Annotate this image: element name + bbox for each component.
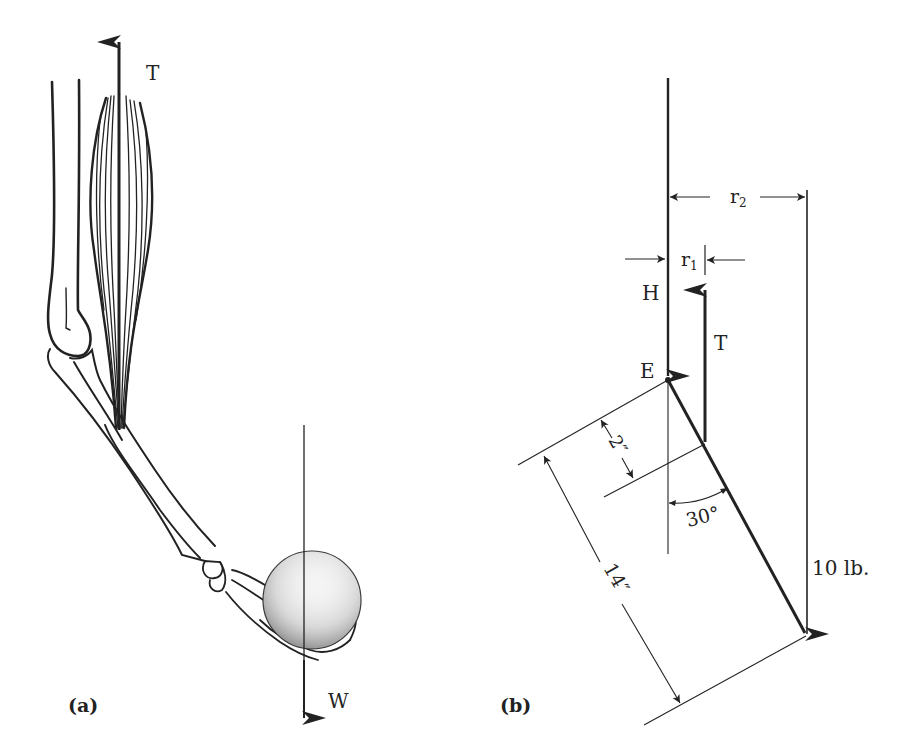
humerus-bone — [48, 80, 90, 356]
panel-a-label: (a) — [68, 694, 98, 716]
weight-label-a: W — [328, 689, 349, 713]
short-dimension-top — [601, 420, 612, 438]
extension-line-elbow — [518, 380, 668, 465]
panel-b-label: (b) — [500, 694, 531, 716]
short-dimension-label: 2″ — [605, 432, 632, 458]
hinge-force-label: H — [642, 281, 659, 305]
angle-arc — [669, 488, 728, 503]
panel-a-arm-illustration — [48, 80, 361, 660]
forearm-bones — [48, 349, 215, 561]
ball-weight — [263, 551, 361, 649]
load-label: 10 lb. — [812, 556, 869, 580]
long-dimension-label: 14″ — [600, 559, 635, 597]
angle-label: 30° — [684, 501, 722, 530]
angle-arc-arrow-left — [669, 500, 676, 506]
long-dimension-top — [544, 456, 600, 562]
tension-label-b: T — [714, 331, 728, 355]
elbow-label: E — [640, 359, 655, 383]
panel-b-free-body-diagram: H E T 10 lb. r2 r1 2″ 14″ — [518, 78, 869, 725]
tension-label-a: T — [146, 61, 160, 85]
r2-label: r2 — [730, 185, 747, 210]
figure-canvas: T W (a) H E T 10 lb. r2 r1 — [0, 0, 915, 754]
short-dimension-bottom — [622, 458, 633, 478]
long-dimension-bottom — [622, 604, 680, 703]
r1-label: r1 — [681, 248, 698, 273]
forearm-bar — [668, 380, 805, 633]
extension-line-hand — [644, 636, 806, 725]
